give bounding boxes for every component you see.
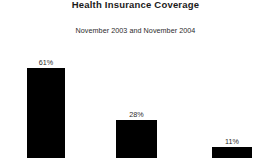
bar-rect bbox=[212, 147, 252, 158]
bar-value-label: 28% bbox=[129, 110, 143, 119]
bar-group: 61% bbox=[27, 68, 65, 158]
plot-area: 61% 28% 11% bbox=[0, 0, 271, 158]
bar-value-label: 61% bbox=[39, 58, 53, 67]
chart-figure: Health Insurance Coverage November 2003 … bbox=[0, 0, 271, 158]
bar-group: 11% bbox=[212, 147, 252, 158]
bar-rect bbox=[27, 68, 65, 158]
bar-group: 28% bbox=[116, 120, 157, 158]
bar-rect bbox=[116, 120, 157, 158]
bar-value-label: 11% bbox=[225, 137, 239, 146]
